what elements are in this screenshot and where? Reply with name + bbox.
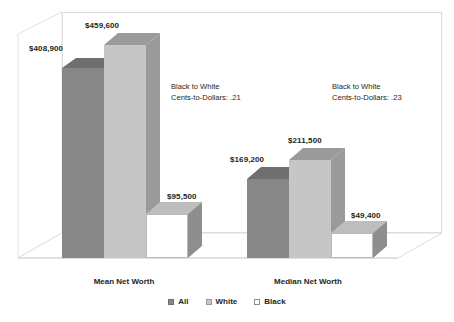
value-label-median-all: $169,200: [230, 155, 264, 164]
annotation-line-1: Black to White: [332, 81, 402, 92]
bar-mean-black: [146, 214, 188, 258]
annotation-mean-group: Black to White Cents-to-Dollars: .21: [171, 81, 241, 103]
bar-chart: $408,900 $459,600 $95,500 Black to White…: [0, 0, 454, 322]
value-label-median-black: $49,400: [351, 211, 381, 220]
bar-median-white: [289, 160, 331, 258]
bar-mean-white: [104, 45, 146, 258]
legend-swatch-black-icon: [254, 299, 260, 305]
legend-swatch-all-icon: [168, 299, 174, 305]
annotation-median-group: Black to White Cents-to-Dollars: .23: [332, 81, 402, 103]
legend-label-black: Black: [264, 297, 285, 306]
annotation-line-2: Cents-to-Dollars: .21: [171, 92, 241, 103]
category-label-mean: Mean Net Worth: [64, 277, 184, 286]
value-label-mean-black: $95,500: [167, 192, 197, 201]
bar-median-black: [331, 233, 373, 258]
legend-label-white: White: [216, 297, 238, 306]
bar-mean-all: [62, 68, 104, 258]
annotation-line-1: Black to White: [171, 81, 241, 92]
value-label-mean-white: $459,600: [85, 21, 119, 30]
category-label-median: Median Net Worth: [245, 277, 371, 286]
legend-item-white[interactable]: White: [206, 297, 238, 306]
legend-item-all[interactable]: All: [168, 297, 188, 306]
bar-median-all: [247, 179, 289, 258]
value-label-mean-all: $408,900: [29, 44, 63, 53]
legend-label-all: All: [178, 297, 188, 306]
chart-legend: All White Black: [0, 297, 454, 306]
legend-item-black[interactable]: Black: [254, 297, 285, 306]
annotation-line-2: Cents-to-Dollars: .23: [332, 92, 402, 103]
legend-swatch-white-icon: [206, 299, 212, 305]
value-label-median-white: $211,500: [288, 136, 322, 145]
